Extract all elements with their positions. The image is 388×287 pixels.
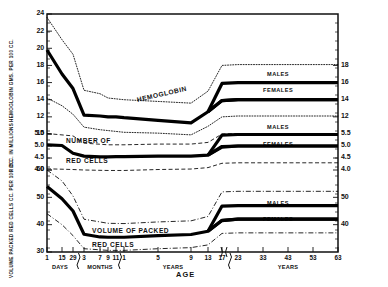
y-tick-label: 5.0 [341,141,350,148]
series-packed-cell-volume-females [208,219,338,231]
y-tick-label: 18 [17,61,44,68]
plot-area [0,0,388,287]
y-tick-label: 5.5 [341,129,350,136]
x-tick-label: 23 [227,254,249,261]
y-tick-label: 24 [17,9,44,16]
x-tick-label: 53 [302,254,324,261]
x-axis-unit-label: YEARS [262,264,314,270]
x-axis-unit-label: YEARS [147,264,199,270]
y-tick-label: 40 [17,220,44,227]
y-tick-label: 5.0 [17,141,44,148]
x-tick-label: 5 [147,254,169,261]
y-tick-label: 40 [341,220,349,227]
x-tick-label: 43 [277,254,299,261]
y-tick-label: 50 [341,193,349,200]
y-tick-label: 5.5 [17,129,44,136]
x-tick-label: 63 [327,254,349,261]
series-red-cell-count-lower-limit [47,163,338,171]
series-packed-cell-volume-upper-limit [47,170,338,224]
y-tick-label: 16 [341,78,349,85]
series-hemoglobin-males [208,83,338,112]
y-tick-label: 4.5 [341,153,350,160]
y-tick-label: 12 [17,112,44,119]
y-tick-label: 18 [341,61,349,68]
y-tick-label: 4.0 [341,165,350,172]
y-tick-label: 20 [17,44,44,51]
y-tick-label: 4.5 [17,153,44,160]
x-tick-label: 1 [113,254,135,261]
series-red-cell-count-females [208,146,338,155]
x-tick-label: 33 [252,254,274,261]
y-tick-label: 14 [341,95,349,102]
series-hemoglobin-females [208,100,338,112]
y-tick-label: 60 [17,165,44,172]
y-tick-label: 14 [17,95,44,102]
series-hemoglobin-upper-limit [47,17,338,103]
series-packed-cell-volume-mean [47,186,338,237]
x-axis-unit-label: MONTHS [74,264,126,270]
series-hemoglobin-mean [47,50,338,123]
y-tick-label: 50 [17,193,44,200]
y-tick-label: 16 [17,78,44,85]
y-tick-label: 22 [17,27,44,34]
figure-canvas: HEMOGLOBIN GMS. PER 100 CC. R.B.C. IN MI… [0,0,388,287]
y-tick-label: 12 [341,112,349,119]
